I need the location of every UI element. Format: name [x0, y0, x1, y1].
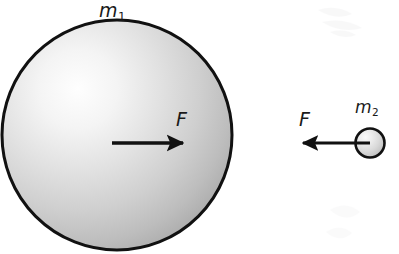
- physics-force-diagram: m1 m2 F F: [0, 0, 399, 254]
- mass-1-label: m1: [99, 1, 125, 20]
- force-label-on-m1: F: [176, 110, 187, 129]
- scan-artifact-bottom-right: [326, 205, 360, 238]
- diagram-canvas: [0, 0, 399, 254]
- mass-1-symbol: m: [99, 0, 118, 21]
- mass-1-subscript: 1: [118, 10, 126, 24]
- mass-2-subscript: 2: [372, 106, 379, 118]
- large-sphere-m1: [2, 20, 232, 250]
- mass-2-label: m2: [355, 99, 378, 116]
- force-label-on-m2: F: [299, 110, 310, 129]
- mass-2-symbol: m: [355, 97, 372, 117]
- scan-artifact-top-right: [318, 8, 362, 37]
